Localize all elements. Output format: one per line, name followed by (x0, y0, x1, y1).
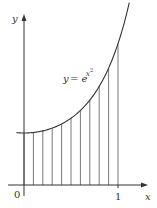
origin-label: 0 (14, 189, 20, 200)
x-axis-label: x (145, 191, 151, 202)
curve-equation-label: y = e x 2 (62, 67, 93, 84)
y-axis-arrow-icon (22, 14, 27, 21)
integral-diagram: y x 0 1 y = e x 2 (0, 0, 157, 208)
x-axis-arrow-icon (141, 183, 148, 188)
svg-text:2: 2 (90, 67, 93, 73)
riemann-vertical-lines (24, 44, 118, 185)
tick-label-one: 1 (115, 191, 121, 202)
curve-exp-x-squared (16, 3, 129, 133)
svg-text:y: y (62, 73, 69, 84)
y-axis-label: y (11, 13, 18, 24)
svg-text:= e: = e (70, 73, 88, 84)
